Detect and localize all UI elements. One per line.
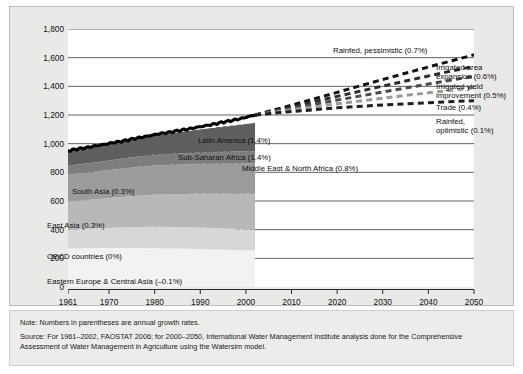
chart-panel: Cultivated area in million hectares 0200…	[9, 6, 514, 306]
scenario-label-irrigated-area-expansion-line1: Irrigated area	[436, 63, 482, 72]
series-label-latin-america: Latin America (1.4%)	[198, 137, 270, 146]
x-axis-tick-1980: 1980	[135, 298, 175, 306]
y-axis-tick-1200: 1,200	[30, 111, 64, 119]
y-axis-tick-600: 600	[30, 197, 64, 205]
scenario-label-irrigated-yield-improvement-line2: improvement (0.5%)	[436, 91, 506, 100]
series-label-sub-saharan-africa: Sub-Saharan Africa (1.4%)	[178, 154, 271, 163]
scenario-label-rainfed-optimistic: Rainfed, optimistic (0.1%)	[436, 117, 494, 135]
x-axis-tick-2010: 2010	[272, 298, 312, 306]
scenario-label-rainfed-pessimistic: Rainfed, pessimistic (0.7%)	[333, 47, 427, 56]
x-axis-tick-2020: 2020	[317, 298, 357, 306]
x-axis-tick-2000: 2000	[226, 298, 266, 306]
y-axis-tick-1600: 1,600	[30, 54, 64, 62]
y-axis-tick-1000: 1,000	[30, 140, 64, 148]
plot-area	[68, 29, 474, 287]
scenario-label-irrigated-yield-improvement: Irrigated yield improvement (0.5%)	[436, 82, 506, 100]
x-axis-tick-1990: 1990	[180, 298, 220, 306]
y-axis-tick-1800: 1,800	[30, 25, 64, 33]
y-axis-tick-labels: 02004006008001,0001,2001,4001,6001,800	[24, 29, 64, 287]
series-label-east-asia: East Asia (0.3%)	[47, 222, 105, 231]
chart-svg	[68, 29, 474, 287]
scenario-label-rainfed-optimistic-line1: Rainfed,	[436, 117, 465, 126]
chart-note: Note: Numbers in parentheses are annual …	[20, 318, 200, 328]
x-axis-tick-2040: 2040	[408, 298, 448, 306]
x-axis-tick-1970: 1970	[89, 298, 129, 306]
series-label-south-asia: South Asia (0.3%)	[72, 188, 134, 197]
chart-source: Source: For 1961–2002, FAOSTAT 2006; for…	[20, 332, 500, 352]
series-label-eastern-europe-central-asia: Eastern Europe & Central Asia (–0.1%)	[47, 278, 182, 287]
scenario-label-irrigated-yield-improvement-line1: Irrigated yield	[436, 82, 483, 91]
scenario-label-trade: Trade (0.4%)	[436, 104, 481, 113]
x-axis-tick-1961: 1961	[48, 298, 88, 306]
x-axis-line	[68, 289, 476, 297]
scenario-label-irrigated-area-expansion: Irrigated area expansion (0.6%)	[436, 63, 497, 81]
scenario-label-irrigated-area-expansion-line2: expansion (0.6%)	[436, 72, 497, 81]
y-axis-tick-1400: 1,400	[30, 82, 64, 90]
figure-container: Cultivated area in million hectares 0200…	[0, 0, 523, 374]
notes-panel: Note: Numbers in parentheses are annual …	[9, 310, 514, 366]
scenario-label-rainfed-optimistic-line2: optimistic (0.1%)	[436, 126, 494, 135]
series-label-oecd: OECD countries (0%)	[47, 253, 122, 262]
y-axis-tick-800: 800	[30, 168, 64, 176]
x-axis-tick-labels: 1961197019801990200020102020203020402050	[68, 293, 474, 307]
x-axis-tick-2050: 2050	[454, 298, 494, 306]
x-axis-tick-2030: 2030	[363, 298, 403, 306]
series-label-middle-east-north-africa: Middle East & North Africa (0.8%)	[242, 165, 358, 174]
